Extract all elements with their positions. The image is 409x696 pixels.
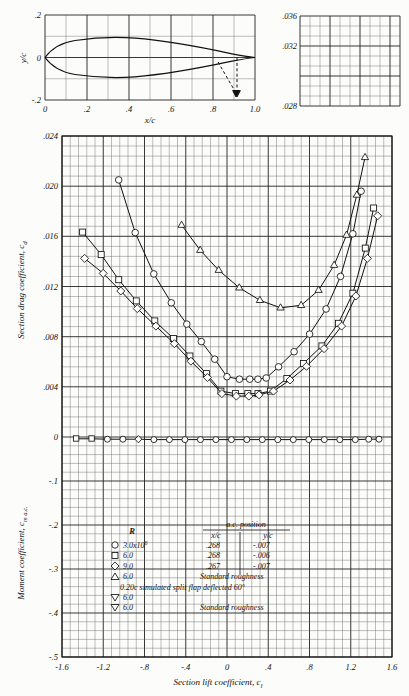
moment-ytick-3: -.3: [49, 564, 58, 574]
profile-grid: [45, 15, 255, 100]
profile-ytick-1: 0: [37, 53, 42, 63]
main-xaxis-label: Section lift coefficient, cl: [174, 677, 263, 690]
drag-ytick-4: .008: [43, 332, 59, 342]
drag-yaxis-label: Section drag coefficient, cd: [16, 241, 29, 339]
legend-row-1-xc: .268: [206, 551, 220, 560]
legend-row-3-note: Standard roughness: [200, 572, 264, 581]
aux-grid-lines: [300, 16, 400, 106]
aux-ytick-0: .036: [282, 11, 298, 21]
auxiliary-grid-panel: .036 .032 .028: [282, 11, 400, 111]
legend-row-2-xc: .267: [206, 562, 221, 571]
drag-ytick-5: .004: [43, 382, 59, 392]
legend-row-0-yc: -.007: [253, 541, 271, 550]
legend-col-yc: y/c: [262, 531, 273, 540]
drag-ytick-3: .012: [43, 282, 59, 292]
series-drag-R6p0e6-roughness-line: [182, 157, 365, 307]
legend-flap-row-1-R: 6.0: [123, 603, 133, 612]
moment-ytick-2: -.2: [49, 520, 59, 530]
legend-row-3-R: 6.0: [123, 572, 133, 581]
moment-ytick-5: -.5: [49, 652, 58, 662]
moment-yaxis-label: Moment coefficient, cm a.c.: [16, 506, 28, 601]
legend-header-ac-position: a.c. position: [226, 520, 265, 529]
legend-row-1-R: 6.0: [123, 551, 133, 560]
main-xtick-0: -1.6: [55, 662, 69, 672]
main-xtick-4: 0: [225, 662, 230, 672]
legend-marker-triangle-down-open: [111, 595, 119, 602]
main-plot-panel: .024 .020 .016 .012 .008 .004 0 -.1 -.2 …: [16, 131, 398, 690]
legend-flap-row-0-R: 6.0: [123, 593, 133, 602]
series-drag-R9p0e6: [81, 212, 382, 400]
profile-ytick-2: -.2: [32, 95, 42, 105]
legend-marker-triangle-down-fill: [111, 605, 119, 612]
legend-row-2-yc: -.007: [253, 562, 271, 571]
legend-header-R: R: [128, 526, 135, 536]
profile-xtick-5: 1.0: [250, 104, 261, 114]
drag-ytick-1: .020: [43, 181, 59, 191]
figure-page: .2 0 -.2 0 .2 .4 .6 .8 1.0 x/c y/c: [0, 0, 409, 696]
profile-xtick-3: .6: [168, 104, 175, 114]
profile-xtick-2: .4: [126, 104, 133, 114]
drag-ytick-2: .016: [43, 231, 59, 241]
legend-row-0-R: 3.0x106: [122, 540, 148, 550]
drag-ytick-6: 0: [54, 432, 59, 442]
main-xtick-2: -.8: [140, 662, 150, 672]
series-drag-R6p0e6-markers: [80, 205, 377, 397]
legend-marker-circle: [112, 542, 118, 548]
moment-ytick-1: -.1: [49, 476, 58, 486]
naca-characteristics-figure: .2 0 -.2 0 .2 .4 .6 .8 1.0 x/c y/c: [0, 0, 409, 696]
moment-ytick-4: -.4: [49, 608, 59, 618]
profile-yaxis-label: y/c: [18, 53, 28, 65]
main-xtick-7: 1.2: [345, 662, 356, 672]
legend-col-xc: x/c: [210, 531, 221, 540]
main-xtick-1: -1.2: [97, 662, 111, 672]
series-drag-R6p0e6: [80, 205, 377, 397]
profile-xtick-1: .2: [84, 104, 91, 114]
hinge-leader-line: [218, 62, 236, 93]
main-xtick-8: 1.6: [387, 662, 398, 672]
profile-xtick-4: .8: [210, 104, 217, 114]
series-drag-R9p0e6-line: [85, 216, 378, 396]
legend-flap-row-1-note: Standard roughness: [200, 603, 264, 612]
profile-xtick-0: 0: [43, 104, 48, 114]
main-xtick-3: -.4: [181, 662, 191, 672]
profile-xaxis-label: x/c: [144, 115, 156, 125]
profile-ytick-0: .2: [35, 10, 42, 20]
legend-marker-triangle-up: [111, 573, 119, 580]
series-drag-R9p0e6-markers: [81, 212, 382, 400]
legend-row-2-R: 9.0: [123, 562, 133, 571]
main-xtick-5: .4: [265, 662, 272, 672]
airfoil-profile-panel: .2 0 -.2 0 .2 .4 .6 .8 1.0 x/c y/c: [18, 10, 261, 125]
legend-flap-note: 0.20c simulated split flap deflected 60°: [120, 583, 246, 592]
aux-ytick-2: .028: [282, 101, 298, 111]
aux-ytick-1: .032: [282, 41, 298, 51]
drag-ytick-0: .024: [43, 131, 59, 141]
legend-row-1-yc: -.006: [253, 551, 270, 560]
legend-marker-square: [112, 553, 118, 559]
legend-row-0-xc: .268: [206, 541, 220, 550]
main-xtick-6: .8: [306, 662, 313, 672]
